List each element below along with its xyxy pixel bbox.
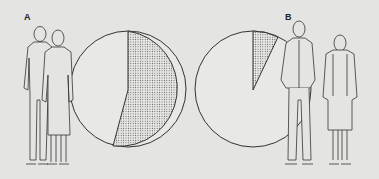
figure-woman-b: [323, 35, 357, 164]
panel-label-a: A: [24, 12, 31, 22]
panel-label-b: B: [285, 12, 292, 22]
illustration: A B: [0, 0, 379, 179]
diagram-svg: [0, 0, 379, 179]
pie-chart-a: [70, 31, 186, 147]
